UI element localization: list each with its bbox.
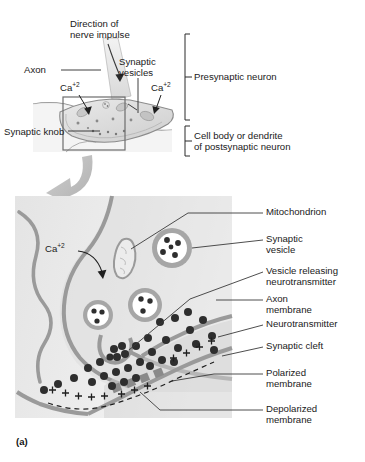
presynaptic-neuron-label: Presynaptic neuron [194, 71, 277, 82]
callout-synaptic-cleft: Synaptic cleft [266, 340, 323, 351]
synaptic-vesicle-left [83, 300, 113, 330]
axon-label: Axon [24, 64, 46, 75]
bottom-magnified-synapse [15, 196, 263, 418]
knob-dot [96, 120, 99, 123]
synaptic-knob-label: Synaptic knob [4, 126, 64, 137]
knob-dot [130, 119, 133, 122]
synapse-illustration [0, 0, 365, 462]
synaptic-vesicle-middle [128, 288, 162, 322]
knob-dot [112, 118, 115, 121]
synaptic-vesicles-label: Synaptic vesicles [119, 56, 156, 78]
postsynaptic-neuron-label: Cell body or dendrite of postsynaptic ne… [194, 130, 291, 152]
callout-depolarized-membrane: Depolarized membrane [266, 403, 317, 425]
knob-dot [87, 127, 89, 129]
synaptic-vesicle-large [152, 228, 192, 268]
callout-vesicle-releasing: Vesicle releasing neurotransmitter [266, 265, 338, 287]
callout-mitochondrion: Mitochondrion [266, 206, 326, 217]
knob-dot [115, 133, 117, 135]
direction-of-impulse-label: Direction of nerve impulse [70, 18, 130, 40]
top-neuron-overview [33, 34, 192, 156]
callout-polarized-membrane: Polarized membrane [266, 367, 312, 389]
calcium-left-label: Ca+2 [60, 82, 80, 93]
panel-letter: (a) [16, 436, 28, 447]
figure-root: Direction of nerve impulse Axon Synaptic… [0, 0, 365, 462]
calcium-label-magnified: Ca+2 [45, 243, 65, 254]
calcium-right-label: Ca+2 [151, 82, 171, 93]
knob-dot [99, 133, 101, 135]
knob-dot [104, 103, 106, 105]
knob-dot [77, 122, 80, 125]
knob-dot [107, 105, 109, 107]
callout-axon-membrane: Axon membrane [266, 293, 312, 315]
callout-synaptic-vesicle: Synaptic vesicle [266, 233, 303, 255]
callout-neurotransmitter: Neurotransmitter [266, 318, 337, 329]
knob-dot [107, 131, 109, 133]
